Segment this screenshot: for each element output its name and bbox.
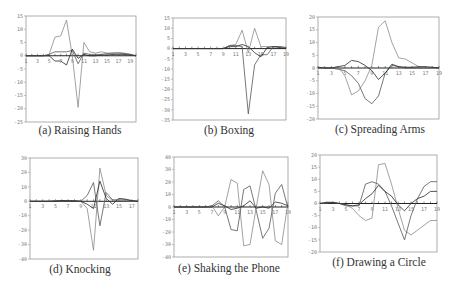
x-tick-label: 15 xyxy=(260,209,266,215)
x-tick-label: 1 xyxy=(318,206,321,212)
x-tick-label: 7 xyxy=(209,51,212,57)
y-tick-label: -40 xyxy=(162,254,171,260)
y-tick-label: -10 xyxy=(306,90,315,96)
x-tick-label: 11 xyxy=(234,209,240,215)
caption-knocking: (d) Knocking xyxy=(0,263,160,275)
caption-spreading-arms: (c) Spreading Arms xyxy=(300,123,453,135)
y-tick-label: -5 xyxy=(309,77,315,83)
data-series-2 xyxy=(320,182,437,240)
y-tick-label: -15 xyxy=(14,92,23,98)
x-tick-label: 17 xyxy=(423,70,429,76)
x-tick-label: 7 xyxy=(210,209,213,215)
panel-knocking: 3020100-10-20-30-401357911131517 (d) Kno… xyxy=(0,148,150,296)
x-tick-label: 3 xyxy=(184,51,187,57)
x-tick-label: 5 xyxy=(344,206,347,212)
y-tick-label: 15 xyxy=(17,13,23,19)
y-tick-label: -15 xyxy=(161,76,170,82)
y-tick-label: -40 xyxy=(18,256,27,262)
y-tick-label: 5 xyxy=(314,188,317,194)
x-tick-label: 3 xyxy=(331,206,334,212)
x-tick-label: 9 xyxy=(79,203,82,209)
panel-raising-hands: 151050-5-10-15-20-25135791113151719 (a) … xyxy=(0,0,150,148)
y-tick-label: 20 xyxy=(165,179,171,185)
x-tick-label: 17 xyxy=(116,58,122,64)
x-tick-label: 13 xyxy=(92,58,98,64)
x-tick-label: 19 xyxy=(283,51,289,57)
x-tick-label: 1 xyxy=(316,70,319,76)
x-tick-label: 19 xyxy=(127,58,133,64)
y-tick-label: 10 xyxy=(165,191,171,197)
x-tick-label: 1 xyxy=(171,51,174,57)
x-tick-label: 5 xyxy=(197,51,200,57)
caption-boxing: (b) Boxing xyxy=(150,124,308,136)
x-tick-label: 13 xyxy=(396,70,402,76)
plot-frame xyxy=(26,16,136,122)
caption-shaking-the-phone: (e) Shaking the Phone xyxy=(150,262,308,274)
y-tick-label: -30 xyxy=(162,241,171,247)
x-tick-label: 7 xyxy=(67,203,70,209)
caption-raising-hands: (a) Raising Hands xyxy=(0,124,160,136)
y-tick-label: 0 xyxy=(314,200,317,206)
y-tick-label: -20 xyxy=(161,86,170,92)
y-tick-label: 40 xyxy=(165,154,171,160)
y-tick-label: 10 xyxy=(164,25,170,31)
y-tick-label: 0 xyxy=(24,198,27,204)
x-tick-label: 11 xyxy=(382,206,388,212)
y-tick-label: -10 xyxy=(18,212,27,218)
y-tick-label: 20 xyxy=(311,152,317,158)
x-tick-label: 15 xyxy=(104,58,110,64)
y-tick-label: 15 xyxy=(309,26,315,32)
x-tick-label: 17 xyxy=(272,209,278,215)
x-tick-label: 3 xyxy=(185,209,188,215)
x-tick-label: 3 xyxy=(36,58,39,64)
plot-frame xyxy=(173,18,286,120)
data-series-2 xyxy=(173,46,286,114)
x-tick-label: 17 xyxy=(270,51,276,57)
x-tick-label: 3 xyxy=(41,203,44,209)
x-tick-label: 5 xyxy=(48,58,51,64)
y-tick-label: 30 xyxy=(165,166,171,172)
y-tick-label: -20 xyxy=(18,227,27,233)
x-tick-label: 17 xyxy=(129,203,135,209)
panel-boxing: 151050-5-10-15-20-25-30-3513579111315171… xyxy=(150,0,300,148)
caption-drawing-a-circle: (f) Drawing a Circle xyxy=(300,256,453,268)
y-tick-label: 20 xyxy=(309,14,315,20)
x-tick-label: 3 xyxy=(330,70,333,76)
x-tick-label: 11 xyxy=(233,51,239,57)
x-tick-label: 15 xyxy=(116,203,122,209)
y-tick-label: -35 xyxy=(161,117,170,123)
y-tick-label: -15 xyxy=(306,103,315,109)
y-tick-label: 20 xyxy=(21,169,27,175)
y-tick-label: 15 xyxy=(311,164,317,170)
y-tick-label: 10 xyxy=(17,26,23,32)
y-tick-label: -15 xyxy=(308,237,317,243)
y-tick-label: -30 xyxy=(18,241,27,247)
y-tick-label: -10 xyxy=(161,66,170,72)
data-series-3 xyxy=(318,60,439,79)
x-tick-label: 13 xyxy=(247,209,253,215)
data-series-1 xyxy=(174,171,288,246)
y-tick-label: -10 xyxy=(162,216,171,222)
x-tick-label: 5 xyxy=(198,209,201,215)
y-tick-label: 10 xyxy=(309,39,315,45)
y-tick-label: -10 xyxy=(14,79,23,85)
y-tick-label: 30 xyxy=(21,155,27,161)
y-tick-label: -30 xyxy=(161,107,170,113)
y-tick-label: 0 xyxy=(167,45,170,51)
y-tick-label: -20 xyxy=(162,229,171,235)
data-series-2 xyxy=(174,185,288,239)
x-tick-label: 17 xyxy=(421,206,427,212)
y-tick-label: 10 xyxy=(21,184,27,190)
y-tick-label: 10 xyxy=(311,176,317,182)
y-tick-label: -5 xyxy=(164,56,170,62)
panel-shaking-the-phone: 403020100-10-20-30-40135791113151719 (e)… xyxy=(150,148,300,296)
y-tick-label: 0 xyxy=(20,52,23,58)
y-tick-label: 15 xyxy=(164,15,170,21)
x-tick-label: 19 xyxy=(436,70,442,76)
y-tick-label: -25 xyxy=(161,96,170,102)
y-tick-label: -20 xyxy=(308,249,317,255)
y-tick-label: 5 xyxy=(167,35,170,41)
x-tick-label: 9 xyxy=(222,51,225,57)
y-tick-label: 0 xyxy=(168,204,171,210)
chart-drawing-a-circle: 20151050-5-10-15-20135791113151719 xyxy=(300,148,453,296)
